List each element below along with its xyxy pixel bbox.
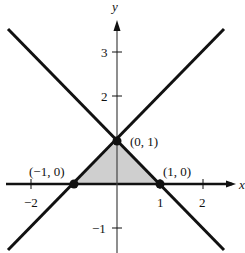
y-tick-label: 2	[101, 89, 108, 104]
point-0-1	[113, 137, 122, 146]
x-tick-label: −2	[24, 195, 38, 210]
point-1-0	[156, 180, 165, 189]
x-tick-label: 1	[157, 195, 164, 210]
y-axis-label: y	[110, 0, 118, 14]
x-axis-arrow-icon	[226, 181, 236, 188]
point-neg1-0	[70, 180, 79, 189]
chart: y x −2 1 2 3 2 −1 (−1, 0) (0, 1) (1, 0)	[0, 0, 245, 253]
x-tick-label: 2	[199, 195, 206, 210]
point-label: (1, 0)	[163, 164, 191, 179]
point-label: (−1, 0)	[29, 164, 65, 179]
point-label: (0, 1)	[130, 134, 158, 149]
y-tick-label: 3	[101, 45, 108, 60]
y-tick-label: −1	[92, 221, 106, 236]
y-axis-arrow-icon	[114, 20, 121, 31]
x-axis-label: x	[238, 177, 245, 192]
